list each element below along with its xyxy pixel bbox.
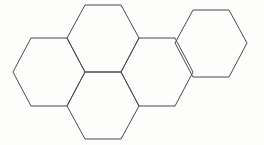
hexagon-lattice-figure — [0, 0, 264, 145]
hexagon-lattice-canvas — [0, 0, 264, 145]
figure-background — [0, 0, 264, 145]
